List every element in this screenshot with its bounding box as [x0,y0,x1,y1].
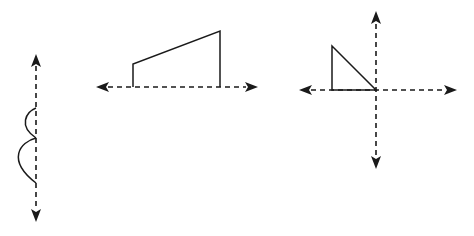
diagram-canvas [0,0,474,236]
arrow-up-icon [371,11,381,24]
right-triangle [332,46,376,90]
arrow-right-icon [444,85,457,95]
arrow-right-icon [245,82,258,92]
trapezoid [133,31,220,87]
lower-arc [18,138,36,183]
arrow-left-icon [299,85,312,95]
arrow-left-icon [96,82,109,92]
figure-3 [299,11,457,169]
figure-2 [96,31,258,92]
upper-arc [25,108,36,138]
figure-1 [18,54,41,222]
arrow-up-icon [31,54,41,67]
arrow-down-icon [31,209,41,222]
arrow-down-icon [371,156,381,169]
